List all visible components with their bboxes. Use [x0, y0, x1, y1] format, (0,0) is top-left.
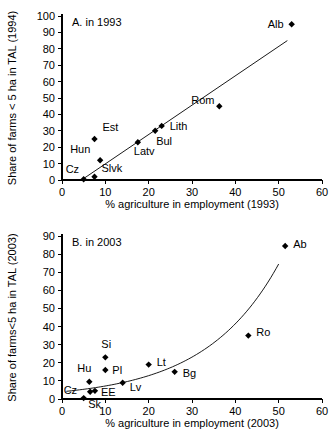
data-point-marker	[282, 243, 288, 249]
y-tick-label: 30	[43, 339, 55, 351]
x-tick-label: 0	[59, 405, 65, 417]
data-point-label: Lith	[170, 120, 188, 132]
x-tick-label: 30	[186, 405, 198, 417]
data-point-marker	[80, 395, 86, 401]
data-point-label: Bg	[183, 367, 196, 379]
panel-a-1993: 01020304050600102030405060708090100% agr…	[0, 0, 335, 218]
data-point-marker	[145, 361, 151, 367]
y-tick-label: 50	[43, 302, 55, 314]
data-point-label: Hu	[77, 362, 91, 374]
x-tick-label: 0	[59, 186, 65, 198]
data-point-label: Sk	[88, 398, 101, 410]
y-tick-label: 0	[49, 393, 55, 405]
x-tick-label: 10	[99, 405, 111, 417]
data-point-label: Est	[103, 121, 119, 133]
data-point-label: EE	[101, 386, 116, 398]
y-tick-label: 10	[43, 158, 55, 170]
x-tick-label: 40	[229, 186, 241, 198]
data-point-label: Alb	[268, 18, 284, 30]
x-tick-label: 40	[229, 405, 241, 417]
y-tick-label: 70	[43, 266, 55, 278]
x-tick-label: 50	[273, 186, 285, 198]
y-tick-label: 70	[43, 59, 55, 71]
data-point-label: Ro	[256, 326, 270, 338]
x-tick-label: 10	[99, 186, 111, 198]
panel-b-plot-area: 01020304050600102030405060708090% agricu…	[6, 230, 328, 429]
data-point-marker	[158, 123, 164, 129]
y-axis-title: Share of farms < 5 ha in TAL (1994)	[6, 11, 18, 185]
data-point-marker	[245, 332, 251, 338]
y-tick-label: 100	[37, 10, 55, 22]
x-tick-label: 60	[316, 186, 328, 198]
data-point-marker	[86, 379, 92, 385]
data-point-marker	[288, 21, 294, 27]
x-axis-title: % agriculture in employment (2003)	[105, 417, 279, 429]
data-point-label: Cz	[66, 163, 79, 175]
y-tick-label: 40	[43, 321, 55, 333]
y-tick-label: 60	[43, 76, 55, 88]
y-axis-title: Share of farms<5 ha in TAL (2003)	[6, 233, 18, 401]
y-tick-label: 20	[43, 357, 55, 369]
panel-title: B. in 2003	[72, 236, 122, 248]
panel-a-plot-area: 01020304050600102030405060708090100% agr…	[6, 10, 328, 210]
panel-b-2003: 01020304050600102030405060708090% agricu…	[0, 216, 335, 437]
data-point-label: Pl	[112, 364, 122, 376]
data-point-marker	[91, 174, 97, 180]
data-point-marker	[102, 367, 108, 373]
y-tick-label: 80	[43, 43, 55, 55]
data-point-marker	[171, 369, 177, 375]
y-tick-label: 50	[43, 92, 55, 104]
data-point-label: Lv	[130, 381, 142, 393]
y-tick-label: 90	[43, 26, 55, 38]
y-tick-label: 80	[43, 248, 55, 260]
y-tick-label: 20	[43, 141, 55, 153]
data-point-marker	[91, 136, 97, 142]
y-tick-label: 30	[43, 125, 55, 137]
data-point-marker	[92, 388, 98, 394]
data-point-label: Cz	[64, 384, 77, 396]
data-point-label: Lt	[157, 356, 166, 368]
x-tick-label: 60	[316, 405, 328, 417]
panel-b-svg: 01020304050600102030405060708090% agricu…	[0, 216, 335, 437]
y-tick-label: 0	[49, 174, 55, 186]
y-tick-label: 60	[43, 284, 55, 296]
figure-two-panel-scatter: 01020304050600102030405060708090100% agr…	[0, 0, 335, 437]
data-point-marker	[216, 103, 222, 109]
data-point-label: Rom	[191, 94, 214, 106]
data-point-label: Si	[101, 338, 111, 350]
data-point-marker	[119, 380, 125, 386]
trendline	[82, 41, 288, 180]
panel-a-svg: 01020304050600102030405060708090100% agr…	[0, 0, 335, 218]
x-tick-label: 20	[143, 186, 155, 198]
y-tick-label: 40	[43, 108, 55, 120]
data-point-label: Latv	[134, 145, 155, 157]
y-tick-label: 10	[43, 375, 55, 387]
data-point-label: Hun	[70, 143, 90, 155]
y-tick-label: 90	[43, 230, 55, 242]
data-point-marker	[87, 389, 93, 395]
data-point-marker	[102, 354, 108, 360]
x-tick-label: 30	[186, 186, 198, 198]
panel-title: A. in 1993	[72, 16, 122, 28]
data-point-label: Bul	[156, 135, 172, 147]
x-tick-label: 20	[143, 405, 155, 417]
x-axis-title: % agriculture in employment (1993)	[105, 198, 279, 210]
data-point-label: Slvk	[102, 162, 123, 174]
x-tick-label: 50	[273, 405, 285, 417]
data-point-label: Ab	[293, 238, 306, 250]
